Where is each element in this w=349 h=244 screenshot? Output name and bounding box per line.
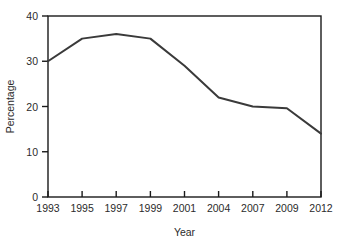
chart-canvas: 40 30 20 10 0 1993 1995 1997 1999 2001 2… — [0, 0, 349, 244]
x-tick-label-2009: 2009 — [275, 202, 299, 214]
x-tick-label-2012: 2012 — [309, 202, 333, 214]
x-axis-title: Year — [174, 226, 196, 238]
y-tick-label-30: 30 — [26, 55, 38, 67]
x-axis-tick-labels: 1993 1995 1997 1999 2001 2004 2007 2009 … — [36, 202, 333, 214]
line-chart-figure: 40 30 20 10 0 1993 1995 1997 1999 2001 2… — [0, 0, 349, 244]
y-tick-label-40: 40 — [26, 10, 38, 22]
y-tick-label-20: 20 — [26, 101, 38, 113]
x-tick-label-2004: 2004 — [207, 202, 231, 214]
x-tick-label-2007: 2007 — [241, 202, 265, 214]
x-tick-label-1993: 1993 — [36, 202, 60, 214]
x-tick-label-1995: 1995 — [70, 202, 94, 214]
y-axis-title: Percentage — [4, 79, 16, 133]
x-tick-label-2001: 2001 — [173, 202, 197, 214]
x-tick-label-1999: 1999 — [139, 202, 163, 214]
y-tick-label-10: 10 — [26, 146, 38, 158]
x-tick-label-1997: 1997 — [105, 202, 129, 214]
